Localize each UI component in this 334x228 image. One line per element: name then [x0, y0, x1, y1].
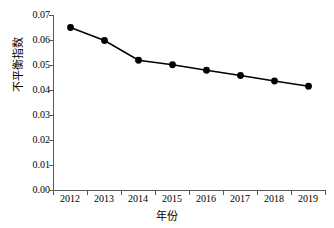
data-point — [271, 78, 278, 85]
plot-area — [0, 0, 334, 228]
x-axis-ticks — [54, 191, 326, 196]
y-axis-ticks — [49, 16, 54, 191]
data-point — [135, 57, 142, 64]
data-point — [305, 83, 312, 90]
data-point — [203, 67, 210, 74]
data-point — [237, 72, 244, 79]
series-line — [71, 28, 309, 87]
data-point — [67, 24, 74, 31]
chart-figure: 不平衡指数 0.07 0.06 0.05 0.04 0.03 0.02 0.01… — [0, 0, 334, 228]
data-point — [101, 37, 108, 44]
data-point — [169, 61, 176, 68]
series-markers — [67, 24, 312, 90]
